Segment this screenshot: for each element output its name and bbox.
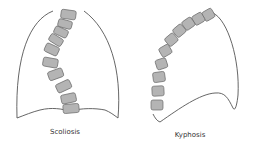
scoliosis-label: Scoliosis <box>45 128 85 136</box>
kyphosis-label: Kyphosis <box>170 131 210 139</box>
spine-deformity-diagram <box>0 0 260 145</box>
scoliosis-vertebrae <box>42 9 79 114</box>
scoliosis-figure <box>17 9 119 118</box>
kyphosis-figure <box>151 8 238 122</box>
